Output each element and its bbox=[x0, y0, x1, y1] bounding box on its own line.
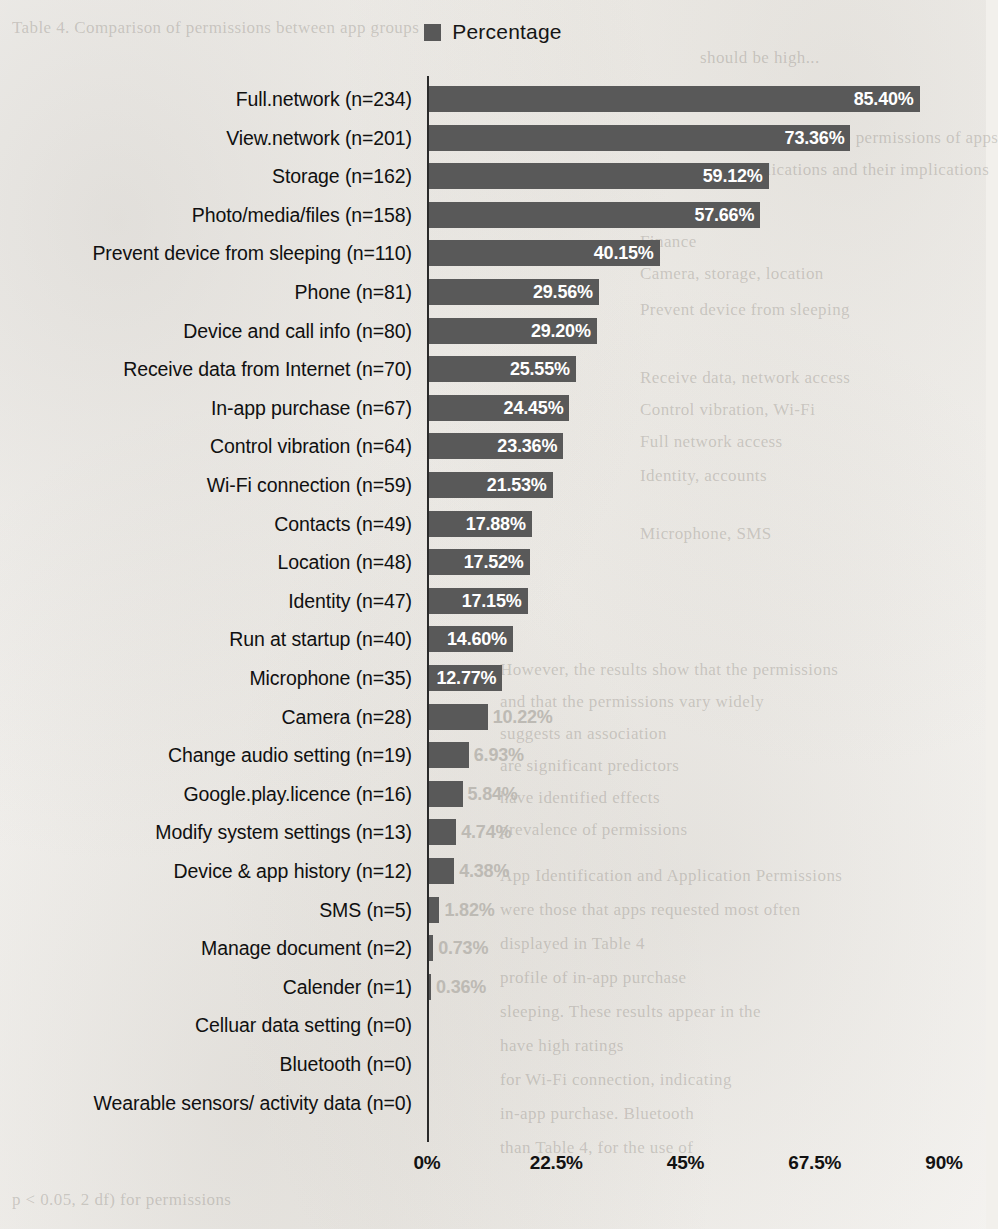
x-axis-tick-label: 0% bbox=[413, 1152, 440, 1174]
bar: 17.88% bbox=[429, 511, 532, 537]
category-label: Change audio setting (n=19) bbox=[0, 745, 412, 765]
bar-container: 6.93% bbox=[429, 742, 469, 768]
bar: 73.36% bbox=[429, 125, 850, 151]
bar-value-label: 6.93% bbox=[474, 745, 524, 766]
bar-value-label: 57.66% bbox=[694, 204, 754, 225]
category-label: Modify system settings (n=13) bbox=[0, 822, 412, 842]
bar-container: 59.12% bbox=[429, 163, 769, 189]
bar-container: 0.36% bbox=[429, 974, 431, 1000]
bar-row: Bluetooth (n=0) bbox=[0, 1045, 986, 1083]
category-label: Bluetooth (n=0) bbox=[0, 1054, 412, 1074]
category-label: Wearable sensors/ activity data (n=0) bbox=[0, 1093, 412, 1113]
category-label: SMS (n=5) bbox=[0, 900, 412, 920]
category-label: Google.play.licence (n=16) bbox=[0, 784, 412, 804]
category-label: In-app purchase (n=67) bbox=[0, 398, 412, 418]
bar-container: 17.88% bbox=[429, 511, 532, 537]
x-axis-ticks: 0%22.5%45%67.5%90% bbox=[0, 1152, 986, 1182]
bar-container: 17.52% bbox=[429, 549, 530, 575]
category-label: Prevent device from sleeping (n=110) bbox=[0, 243, 412, 263]
legend-swatch-percentage bbox=[424, 24, 441, 41]
category-label: Identity (n=47) bbox=[0, 591, 412, 611]
bar-row: Prevent device from sleeping (n=110)40.1… bbox=[0, 234, 986, 272]
bar-row: Modify system settings (n=13)4.74% bbox=[0, 813, 986, 851]
bar: 5.84% bbox=[429, 781, 463, 807]
bar-value-label: 73.36% bbox=[785, 127, 845, 148]
bar-container: 14.60% bbox=[429, 626, 513, 652]
bar-row: Device and call info (n=80)29.20% bbox=[0, 312, 986, 350]
bar-value-label: 0.36% bbox=[436, 976, 486, 997]
bar-row: Control vibration (n=64)23.36% bbox=[0, 427, 986, 465]
x-axis-tick-label: 67.5% bbox=[788, 1152, 841, 1174]
category-label: Calender (n=1) bbox=[0, 977, 412, 997]
bar-row: Google.play.licence (n=16)5.84% bbox=[0, 775, 986, 813]
bar-container: 29.20% bbox=[429, 318, 597, 344]
bar-row: Run at startup (n=40)14.60% bbox=[0, 620, 986, 658]
category-label: Photo/media/files (n=158) bbox=[0, 205, 412, 225]
bar-container: 5.84% bbox=[429, 781, 463, 807]
bar: 0.36% bbox=[429, 974, 431, 1000]
bar: 57.66% bbox=[429, 202, 760, 228]
bar: 1.82% bbox=[429, 897, 439, 923]
bar-value-label: 29.56% bbox=[533, 282, 593, 303]
category-label: Manage document (n=2) bbox=[0, 938, 412, 958]
bar: 59.12% bbox=[429, 163, 769, 189]
bar: 4.74% bbox=[429, 819, 456, 845]
bar-value-label: 4.74% bbox=[461, 822, 511, 843]
bar-row: Full.network (n=234)85.40% bbox=[0, 80, 986, 118]
x-axis-tick-label: 45% bbox=[667, 1152, 704, 1174]
category-label: Phone (n=81) bbox=[0, 282, 412, 302]
bar: 40.15% bbox=[429, 240, 660, 266]
bar-container: 1.82% bbox=[429, 897, 439, 923]
category-label: Location (n=48) bbox=[0, 552, 412, 572]
bar: 24.45% bbox=[429, 395, 569, 421]
bar: 21.53% bbox=[429, 472, 553, 498]
bar: 25.55% bbox=[429, 356, 576, 382]
bar: 10.22% bbox=[429, 704, 488, 730]
bar: 6.93% bbox=[429, 742, 469, 768]
bar-row: SMS (n=5)1.82% bbox=[0, 891, 986, 929]
bar-container: 57.66% bbox=[429, 202, 760, 228]
category-label: Device and call info (n=80) bbox=[0, 321, 412, 341]
bar-container: 12.77% bbox=[429, 665, 502, 691]
category-label: Camera (n=28) bbox=[0, 707, 412, 727]
bar-value-label: 25.55% bbox=[510, 359, 570, 380]
bar: 0.73% bbox=[429, 935, 433, 961]
bar-value-label: 29.20% bbox=[531, 320, 591, 341]
bar-value-label: 40.15% bbox=[594, 243, 654, 264]
bar-value-label: 14.60% bbox=[447, 629, 507, 650]
category-label: Wi-Fi connection (n=59) bbox=[0, 475, 412, 495]
bar-value-label: 23.36% bbox=[497, 436, 557, 457]
bar-container: 73.36% bbox=[429, 125, 850, 151]
bar-value-label: 17.88% bbox=[466, 513, 526, 534]
bar-value-label: 5.84% bbox=[468, 783, 518, 804]
bar-value-label: 21.53% bbox=[487, 475, 547, 496]
bar-container: 40.15% bbox=[429, 240, 660, 266]
bar-container: 21.53% bbox=[429, 472, 553, 498]
bar-value-label: 17.15% bbox=[462, 590, 522, 611]
legend-label-percentage: Percentage bbox=[452, 20, 561, 44]
chart-legend: Percentage bbox=[0, 20, 986, 44]
bar-value-label: 10.22% bbox=[493, 706, 553, 727]
x-axis-tick-label: 90% bbox=[925, 1152, 962, 1174]
bar: 85.40% bbox=[429, 86, 920, 112]
bar-row: Microphone (n=35)12.77% bbox=[0, 659, 986, 697]
bar-container: 4.74% bbox=[429, 819, 456, 845]
bar-value-label: 59.12% bbox=[703, 166, 763, 187]
bar-value-label: 0.73% bbox=[438, 938, 488, 959]
bar-row: Photo/media/files (n=158)57.66% bbox=[0, 196, 986, 234]
category-label: Full.network (n=234) bbox=[0, 89, 412, 109]
bar-container: 85.40% bbox=[429, 86, 920, 112]
bar-value-label: 1.82% bbox=[444, 899, 494, 920]
category-label: Microphone (n=35) bbox=[0, 668, 412, 688]
bar-value-label: 4.38% bbox=[459, 861, 509, 882]
bar: 12.77% bbox=[429, 665, 502, 691]
category-label: Run at startup (n=40) bbox=[0, 629, 412, 649]
bar-row: Contacts (n=49)17.88% bbox=[0, 505, 986, 543]
bar: 29.56% bbox=[429, 279, 599, 305]
bar: 17.52% bbox=[429, 549, 530, 575]
bar: 17.15% bbox=[429, 588, 528, 614]
bar-container: 10.22% bbox=[429, 704, 488, 730]
bar-row: Wearable sensors/ activity data (n=0) bbox=[0, 1084, 986, 1122]
category-label: Contacts (n=49) bbox=[0, 514, 412, 534]
